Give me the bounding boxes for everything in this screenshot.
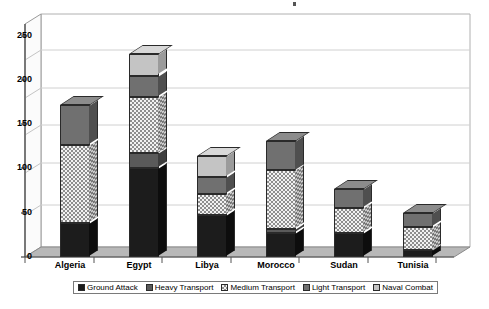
segment-egypt-heavy-transport[interactable] [129,153,159,168]
segment-side [158,164,167,256]
legend-label: Medium Transport [230,283,294,292]
segment-sudan-medium-transport[interactable] [334,208,364,233]
y-tick-50: 50 [2,208,32,217]
segment-libya-light-transport[interactable] [197,177,227,194]
segment-side [226,210,235,256]
legend-swatch-icon [303,284,310,291]
legend-swatch-icon [78,284,85,291]
y-tick-100: 100 [2,163,32,172]
segment-egypt-light-transport[interactable] [129,76,159,97]
segment-morocco-ground-attack[interactable] [266,233,296,257]
segment-libya-medium-transport[interactable] [197,194,227,215]
segment-morocco-light-transport[interactable] [266,141,296,171]
segment-egypt-ground-attack[interactable] [129,168,159,257]
segment-side [89,218,98,256]
segment-algeria-medium-transport[interactable] [60,145,90,223]
segment-morocco-medium-transport[interactable] [266,170,296,229]
chart-canvas: 250 200 150 100 50 0 Algeria Egypt Libya… [0,0,489,309]
bar-algeria[interactable] [60,105,90,257]
segment-libya-ground-attack[interactable] [197,215,227,257]
segment-tunisia-light-transport[interactable] [403,213,433,227]
legend-swatch-icon [221,284,228,291]
segment-tunisia-ground-attack[interactable] [403,250,433,257]
segment-side [295,229,304,256]
segment-sudan-ground-attack[interactable] [334,233,364,257]
segment-libya-naval-combat[interactable] [197,156,227,177]
x-label-tunisia: Tunisia [378,258,448,272]
bar-morocco[interactable] [266,141,296,257]
bar-libya[interactable] [197,156,227,257]
legend-label: Heavy Transport [155,283,214,292]
segment-side [89,100,98,144]
legend-item-light-transport[interactable]: Light Transport [303,283,365,292]
legend-item-medium-transport[interactable]: Medium Transport [221,283,294,292]
legend-label: Naval Combat [382,283,433,292]
segment-side [363,229,372,256]
x-axis-labels: Algeria Egypt Libya Morocco Sudan Tunisi… [0,258,489,274]
legend-item-naval-combat[interactable]: Naval Combat [373,283,433,292]
chart-legend: Ground AttackHeavy TransportMedium Trans… [73,281,438,294]
legend-swatch-icon [146,284,153,291]
y-tick-200: 200 [2,75,32,84]
segment-morocco-heavy-transport[interactable] [266,229,296,233]
segment-side [89,140,98,222]
legend-label: Light Transport [312,283,365,292]
segment-egypt-medium-transport[interactable] [129,97,159,154]
segment-algeria-ground-attack[interactable] [60,223,90,257]
segment-side [158,92,167,152]
legend-item-ground-attack[interactable]: Ground Attack [78,283,138,292]
bar-tunisia[interactable] [403,213,433,257]
y-tick-150: 150 [2,119,32,128]
x-label-morocco: Morocco [241,258,311,272]
x-label-sudan: Sudan [309,258,379,272]
segment-egypt-naval-combat[interactable] [129,54,159,75]
segment-sudan-light-transport[interactable] [334,189,364,208]
segment-side [295,165,304,228]
x-label-algeria: Algeria [35,258,105,272]
bar-egypt[interactable] [129,54,159,257]
legend-item-heavy-transport[interactable]: Heavy Transport [146,283,214,292]
legend-swatch-icon [373,284,380,291]
bar-sudan[interactable] [334,189,364,257]
segment-algeria-light-transport[interactable] [60,105,90,145]
y-tick-250: 250 [2,31,32,40]
title-remnant-mark [293,2,296,6]
x-label-libya: Libya [172,258,242,272]
legend-label: Ground Attack [87,283,138,292]
x-label-egypt: Egypt [104,258,174,272]
segment-tunisia-medium-transport[interactable] [403,227,433,251]
